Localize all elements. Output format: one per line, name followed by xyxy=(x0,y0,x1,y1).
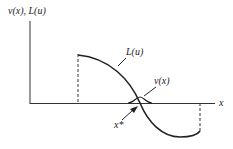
point-label: x* xyxy=(113,119,123,130)
xstar-arrow-shaft xyxy=(122,110,133,120)
y-axis-label: v(x), L(u) xyxy=(8,5,46,17)
v-leader xyxy=(144,87,156,96)
curve-L-label: L(u) xyxy=(125,46,144,58)
diagram: v(x), L(u) x L(u) v(x) x* xyxy=(0,0,233,149)
L-leader xyxy=(118,58,126,66)
x-axis-label: x xyxy=(218,97,224,108)
curve-L xyxy=(78,55,200,137)
curve-v-label: v(x) xyxy=(154,75,170,87)
